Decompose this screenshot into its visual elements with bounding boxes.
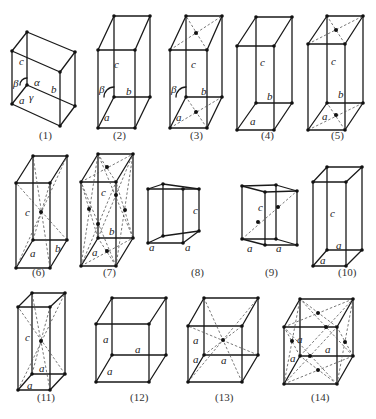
centered-lattice-point <box>123 208 127 212</box>
lattice-trigonal-rhombohedral: caa(9) <box>240 183 299 279</box>
axis-label: a <box>336 239 342 251</box>
lattice-point <box>298 297 302 301</box>
lattice-edge <box>27 32 75 52</box>
axis-label: a <box>92 246 98 258</box>
lattice-point <box>295 243 299 247</box>
lattice-point <box>25 83 29 87</box>
lattice-edge <box>50 293 65 307</box>
lattice-point <box>148 14 152 18</box>
axis-label: b <box>109 225 115 237</box>
lattice-point <box>30 291 34 295</box>
lattice-point <box>263 243 267 247</box>
lattice-point <box>58 70 62 74</box>
lattice-caption: (4) <box>261 129 274 142</box>
centered-lattice-point <box>276 205 280 209</box>
lattice-point <box>186 324 190 328</box>
axis-label: c <box>260 56 265 68</box>
bravais-lattice-figure: cβαbaγ(1)cβba(2)cβba(3)cba(4)cba(5)cab(6… <box>0 0 376 419</box>
centered-lattice-point <box>96 222 100 226</box>
axis-label: c <box>25 331 30 343</box>
lattice-point <box>14 181 18 185</box>
lattice-point <box>96 48 100 52</box>
lattice-point <box>112 14 116 18</box>
lattice-caption: (7) <box>103 266 116 279</box>
lattice-edge <box>346 167 362 182</box>
lattice-caption: (10) <box>338 266 357 279</box>
lattice-edge <box>60 106 75 126</box>
lattice-cubic-primitive: aaa(12) <box>94 296 168 404</box>
lattice-point <box>256 353 260 357</box>
lattice-edge <box>96 298 112 324</box>
lattice-caption: (8) <box>191 266 204 279</box>
lattice-point <box>79 180 83 184</box>
lattice-monoclinic-primitive: cβba(2) <box>96 14 152 142</box>
lattice-orthorhombic-face-centered: cba(7) <box>79 152 135 279</box>
lattice-caption: (3) <box>190 129 203 142</box>
lattice-point <box>360 248 364 252</box>
lattice-cubic-body-centered: aaa(13) <box>186 296 260 404</box>
lattice-point <box>272 44 276 48</box>
axis-label: c <box>191 58 196 70</box>
lattice-point <box>96 236 100 240</box>
centered-lattice-point <box>221 338 225 342</box>
lattice-point <box>240 380 244 384</box>
lattice-point <box>205 126 209 130</box>
lattice-point <box>65 154 69 158</box>
lattice-edge <box>188 298 204 326</box>
lattice-edge <box>242 355 258 382</box>
centered-lattice-point <box>39 339 43 343</box>
lattice-point <box>290 15 294 19</box>
lattice-edge <box>276 185 297 191</box>
centered-lattice-point <box>194 110 198 114</box>
lattice-point <box>65 238 69 242</box>
centered-lattice-point <box>343 340 347 344</box>
lattice-caption: (9) <box>265 266 278 279</box>
lattice-point <box>73 104 77 108</box>
centered-lattice-point <box>39 210 43 214</box>
lattice-point <box>220 14 224 18</box>
lattice-point <box>168 48 172 52</box>
lattice-point <box>10 49 14 53</box>
lattice-point <box>335 382 339 386</box>
centered-lattice-point <box>334 28 338 32</box>
lattice-point <box>112 95 116 99</box>
angle-arc <box>176 87 186 97</box>
axis-label: a <box>276 242 282 254</box>
lattice-edge <box>50 156 67 183</box>
lattice-point <box>48 181 52 185</box>
lattice-edge <box>18 293 32 307</box>
lattice-hexagonal-primitive: caa(8) <box>146 182 204 279</box>
lattice-monoclinic-base-centered: cβba(3) <box>168 14 224 142</box>
dashed-diagonal <box>242 191 297 239</box>
lattice-edge <box>135 16 150 50</box>
lattice-point <box>254 101 258 105</box>
centered-lattice-point <box>334 113 338 117</box>
lattice-point <box>25 30 29 34</box>
lattice-point <box>114 180 118 184</box>
lattice-point <box>146 187 150 191</box>
axis-label: β <box>98 83 105 95</box>
centered-lattice-point <box>316 368 320 372</box>
lattice-point <box>184 14 188 18</box>
lattice-point <box>184 95 188 99</box>
lattice-point <box>220 95 224 99</box>
lattice-point <box>282 382 286 386</box>
lattice-point <box>133 126 137 130</box>
lattice-edge <box>242 185 276 186</box>
centered-lattice-point <box>324 325 328 329</box>
lattice-point <box>325 101 329 105</box>
axis-label: a <box>221 354 227 366</box>
lattice-point <box>205 48 209 52</box>
axis-label: b <box>201 85 207 97</box>
axis-label: a <box>185 241 191 253</box>
lattice-point <box>351 354 355 358</box>
axis-label: b <box>338 88 344 100</box>
axis-label: c <box>193 204 198 216</box>
axis-label: c <box>114 58 119 70</box>
lattice-orthorhombic-body-centered: cab(6) <box>14 154 69 279</box>
centered-lattice-point <box>256 220 260 224</box>
lattice-point <box>344 180 348 184</box>
lattice-point <box>164 353 168 357</box>
lattice-edge <box>313 167 327 182</box>
axis-label: a <box>250 115 256 127</box>
